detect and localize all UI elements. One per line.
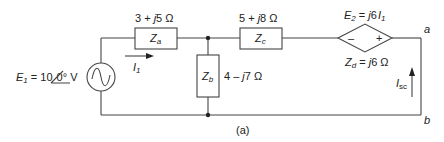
- dependent-source-label: E2 = j6I1: [344, 9, 385, 23]
- circuit-diagram: E1 = 100° V Za 3 + j5 Ω I1 Zb 4 – j7 Ω Z…: [0, 0, 444, 142]
- figure-caption: (a): [236, 124, 249, 136]
- impedance-za: Za 3 + j5 Ω: [135, 12, 177, 49]
- node-top: [206, 36, 210, 40]
- ac-source-icon: [87, 63, 115, 91]
- impedance-zb: Zb 4 – j7 Ω: [197, 55, 262, 97]
- svg-text:3 + j5 Ω: 3 + j5 Ω: [135, 12, 174, 24]
- node-bottom: [206, 113, 210, 117]
- terminal-a: a: [424, 23, 430, 35]
- terminal-b: b: [424, 114, 430, 126]
- impedance-zc: Zc 5 + j8 Ω: [239, 12, 282, 49]
- isc-arrow-icon: [409, 67, 415, 97]
- current-i1-label: I1: [133, 61, 141, 75]
- svg-text:–: –: [348, 32, 355, 44]
- svg-text:5 + j8 Ω: 5 + j8 Ω: [239, 12, 278, 24]
- current-i1-arrow-icon: [125, 53, 154, 59]
- isc-label: Isc: [396, 77, 407, 91]
- zd-label: Zd = j6 Ω: [344, 56, 389, 70]
- svg-text:+: +: [376, 32, 382, 44]
- dependent-source-icon: – +: [338, 24, 392, 52]
- svg-text:4 – j7 Ω: 4 – j7 Ω: [224, 70, 262, 82]
